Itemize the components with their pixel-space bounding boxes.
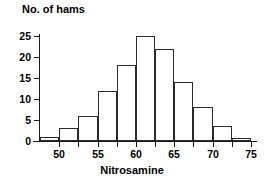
y-tick-label: 15 — [0, 73, 31, 84]
x-tick-mark — [117, 142, 118, 147]
y-tick-label: 5 — [0, 115, 31, 126]
x-tick-mark — [251, 142, 252, 147]
y-axis-title: No. of hams — [22, 3, 85, 15]
x-tick-label: 75 — [234, 149, 264, 160]
x-tick-mark — [232, 142, 233, 147]
y-tick-mark — [34, 141, 39, 142]
x-tick-mark — [59, 142, 60, 147]
x-tick-label: 55 — [81, 149, 115, 160]
histogram-bar — [174, 82, 193, 141]
x-tick-label: 50 — [42, 149, 76, 160]
y-tick-mark — [34, 78, 39, 79]
y-tick-mark — [34, 120, 39, 121]
y-tick-label: 20 — [0, 52, 31, 63]
y-tick-label: 0 — [0, 136, 31, 147]
x-tick-mark — [78, 142, 79, 147]
x-tick-label: 70 — [196, 149, 230, 160]
x-tick-mark — [155, 142, 156, 147]
x-tick-label: 60 — [119, 149, 153, 160]
histogram-bar — [213, 126, 232, 141]
histogram-bar — [155, 49, 174, 141]
histogram-bar — [40, 137, 59, 141]
histogram-chart: No. of hams 0510152025 505560657075 Nitr… — [0, 0, 264, 185]
histogram-bar — [98, 91, 117, 141]
histogram-bar — [232, 138, 251, 141]
y-tick-label: 10 — [0, 94, 31, 105]
x-tick-label: 65 — [157, 149, 191, 160]
x-axis-title: Nitrosamine — [0, 164, 264, 176]
histogram-bar — [117, 65, 136, 141]
histogram-bar — [59, 128, 78, 141]
x-tick-mark — [213, 142, 214, 147]
x-tick-mark — [174, 142, 175, 147]
x-tick-mark — [193, 142, 194, 147]
histogram-bar — [193, 107, 212, 141]
y-tick-label: 25 — [0, 31, 31, 42]
y-tick-mark — [34, 99, 39, 100]
plot-area — [40, 36, 251, 141]
y-tick-mark — [34, 57, 39, 58]
x-tick-mark — [136, 142, 137, 147]
y-tick-mark — [34, 36, 39, 37]
x-tick-mark — [98, 142, 99, 147]
histogram-bar — [78, 116, 97, 141]
histogram-bar — [136, 36, 155, 141]
x-axis-line — [33, 141, 257, 142]
